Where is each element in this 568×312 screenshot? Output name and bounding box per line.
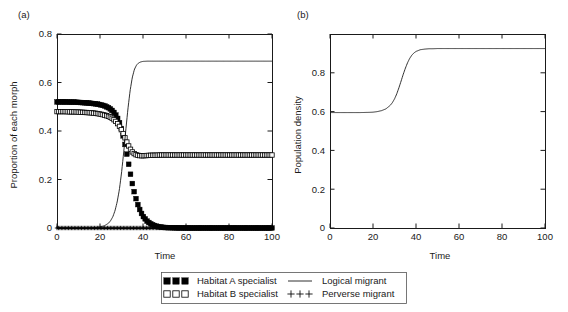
y-tick-label: 0	[47, 222, 52, 233]
y-tick-label: 0	[320, 222, 325, 233]
x-tick-label: 40	[138, 231, 149, 242]
figure-legend: Habitat A specialistLogical migrantHabit…	[162, 273, 407, 304]
panel-b-x-axis-title: Time	[430, 250, 451, 261]
legend-marker-filled-square	[173, 278, 179, 284]
marker-filled-square	[128, 172, 133, 177]
panel-a-label: (a)	[18, 9, 30, 20]
panel-b-plot-area	[330, 49, 545, 113]
curve-path	[330, 49, 545, 113]
series-logical-migrant	[57, 61, 272, 228]
panel-a-plot-area	[55, 61, 275, 230]
legend-marker-open-square	[182, 291, 188, 297]
y-tick-label: 0.4	[39, 125, 52, 136]
legend-items: Habitat A specialistLogical migrantHabit…	[164, 275, 395, 299]
legend-label: Habitat A specialist	[197, 275, 277, 286]
panel-a: (a) 02040608010000.20.40.60.8 Time Propo…	[8, 9, 280, 261]
x-tick-label: 60	[181, 231, 192, 242]
marker-filled-square	[130, 181, 135, 186]
marker-filled-square	[126, 162, 131, 167]
series-population-density	[330, 49, 545, 113]
x-tick-label: 100	[264, 231, 280, 242]
x-tick-label: 20	[368, 231, 379, 242]
panel-a-frame	[58, 35, 273, 229]
x-tick-label: 40	[411, 231, 422, 242]
figure-root: (a) 02040608010000.20.40.60.8 Time Propo…	[0, 0, 568, 312]
legend-marker-open-square	[173, 291, 179, 297]
marker-filled-square	[134, 196, 139, 201]
panel-b-y-axis-title: Population density	[292, 96, 303, 174]
legend-label: Perverse migrant	[322, 288, 395, 299]
y-tick-label: 0.2	[39, 174, 52, 185]
panel-a-x-axis-title: Time	[155, 250, 176, 261]
legend-label: Logical migrant	[322, 275, 387, 286]
panel-b-axes: 02040608010000.20.40.60.8	[312, 34, 553, 242]
legend-marker-plus	[296, 290, 303, 297]
panel-b: (b) 02040608010000.20.40.60.8 Time Popul…	[292, 9, 553, 261]
x-tick-label: 20	[95, 231, 106, 242]
marker-open-square	[270, 153, 274, 157]
series-habitat-a-specialist	[55, 100, 275, 231]
legend-marker-filled-square	[164, 278, 170, 284]
legend-marker-plus	[305, 290, 312, 297]
marker-filled-square	[135, 202, 140, 207]
legend-marker-filled-square	[182, 278, 188, 284]
y-tick-label: 0.8	[39, 28, 52, 39]
panel-b-frame	[331, 35, 546, 229]
x-tick-label: 60	[454, 231, 465, 242]
legend-item: Logical migrant	[288, 275, 387, 286]
x-tick-label: 100	[537, 231, 553, 242]
y-tick-label: 0.2	[312, 184, 325, 195]
marker-filled-square	[124, 152, 129, 157]
x-tick-label: 0	[327, 231, 332, 242]
panel-b-label: (b)	[297, 9, 309, 20]
legend-marker-plus	[287, 290, 294, 297]
legend-item: Habitat B specialist	[164, 288, 278, 299]
legend-marker-open-square	[164, 291, 170, 297]
marker-filled-square	[132, 189, 137, 194]
series-habitat-b-specialist	[55, 109, 274, 158]
marker-open-square	[121, 131, 125, 135]
y-tick-label: 0.6	[312, 106, 325, 117]
y-tick-label: 0.6	[39, 77, 52, 88]
panel-a-axes: 02040608010000.20.40.60.8	[39, 28, 280, 242]
x-tick-label: 0	[54, 231, 59, 242]
y-tick-label: 0.4	[312, 145, 325, 156]
x-tick-label: 80	[497, 231, 508, 242]
panel-a-y-axis-title: Proportion of each morph	[8, 81, 19, 188]
legend-label: Habitat B specialist	[197, 288, 278, 299]
curve-path	[57, 61, 272, 228]
x-tick-label: 80	[224, 231, 235, 242]
legend-item: Perverse migrant	[287, 288, 394, 299]
y-tick-label: 0.8	[312, 67, 325, 78]
legend-item: Habitat A specialist	[164, 275, 277, 286]
